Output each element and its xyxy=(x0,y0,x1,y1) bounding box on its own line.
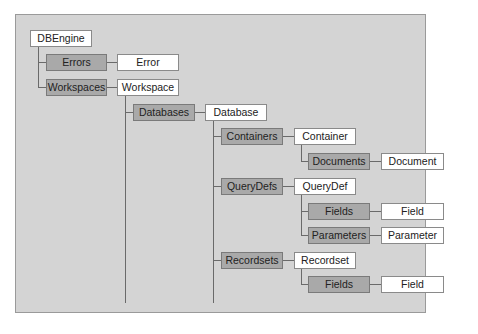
connector-documents-document xyxy=(370,161,381,162)
node-querydef-field: Field xyxy=(381,203,444,220)
connector-to-documents xyxy=(301,161,308,162)
connector-querydefs-querydef xyxy=(283,186,294,187)
node-container: Container xyxy=(294,128,356,145)
connector-to-parameters xyxy=(301,235,308,236)
connector-containers-container xyxy=(283,136,294,137)
connector-to-databases xyxy=(125,112,133,113)
connector-to-containers xyxy=(213,136,221,137)
node-databases: Databases xyxy=(133,104,195,121)
connector-recordset-trunk xyxy=(301,269,302,285)
connector-to-qd-fields xyxy=(301,211,308,212)
node-recordset-fields: Fields xyxy=(308,276,370,293)
connector-to-rs-fields xyxy=(301,284,308,285)
node-dbengine: DBEngine xyxy=(30,30,92,47)
connector-workspace-trunk xyxy=(125,96,126,303)
node-errors: Errors xyxy=(46,54,107,71)
node-recordset: Recordset xyxy=(294,252,356,269)
connector-qd-fields-field xyxy=(370,211,381,212)
connector-databases-database xyxy=(195,112,205,113)
node-querydef: QueryDef xyxy=(294,178,356,195)
connector-errors-error xyxy=(107,62,117,63)
connector-container-trunk xyxy=(301,145,302,162)
node-workspaces: Workspaces xyxy=(46,79,107,96)
node-parameter: Parameter xyxy=(381,227,444,244)
node-document: Document xyxy=(381,153,444,170)
connector-rs-fields-field xyxy=(370,284,381,285)
node-recordset-field: Field xyxy=(381,276,444,293)
connector-workspaces-workspace xyxy=(107,87,117,88)
node-error: Error xyxy=(117,54,179,71)
node-workspace: Workspace xyxy=(117,79,179,96)
connector-recordsets-recordset xyxy=(283,260,294,261)
connector-to-errors xyxy=(38,62,46,63)
connector-to-querydefs xyxy=(213,186,221,187)
connector-database-trunk xyxy=(213,121,214,303)
node-recordsets: Recordsets xyxy=(221,252,283,269)
connector-dbengine-trunk xyxy=(38,46,39,88)
node-containers: Containers xyxy=(221,128,283,145)
connector-to-recordsets xyxy=(213,260,221,261)
connector-to-workspaces xyxy=(38,87,46,88)
connector-querydef-trunk xyxy=(301,195,302,236)
node-querydef-fields: Fields xyxy=(308,203,370,220)
connector-parameters-parameter xyxy=(370,235,381,236)
node-documents: Documents xyxy=(308,153,370,170)
node-database: Database xyxy=(205,104,267,121)
node-querydefs: QueryDefs xyxy=(221,178,283,195)
node-parameters: Parameters xyxy=(308,227,370,244)
